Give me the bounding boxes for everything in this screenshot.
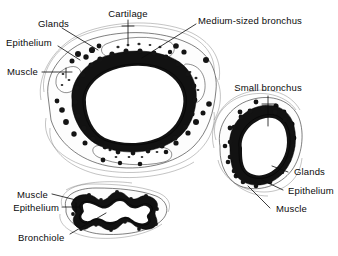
label-medium-glands: Glands: [38, 18, 69, 29]
label-small-muscle: Muscle: [276, 203, 307, 214]
label-bronchiole-title: Bronchiole: [18, 232, 64, 243]
label-small-title: Small bronchus: [234, 82, 302, 93]
label-bronchiole-epithelium: Epithelium: [13, 202, 59, 213]
label-small-epithelium: Epithelium: [288, 185, 334, 196]
label-small-glands: Glands: [294, 166, 325, 177]
label-medium-muscle: Muscle: [7, 66, 38, 77]
label-bronchiole-muscle: Muscle: [17, 189, 48, 200]
airway-cross-section-figure: Glands Cartilage Epithelium Muscle Mediu…: [0, 0, 338, 256]
label-medium-cartilage: Cartilage: [108, 8, 147, 19]
label-medium-title: Medium-sized bronchus: [198, 15, 302, 26]
label-medium-epithelium: Epithelium: [6, 37, 52, 48]
